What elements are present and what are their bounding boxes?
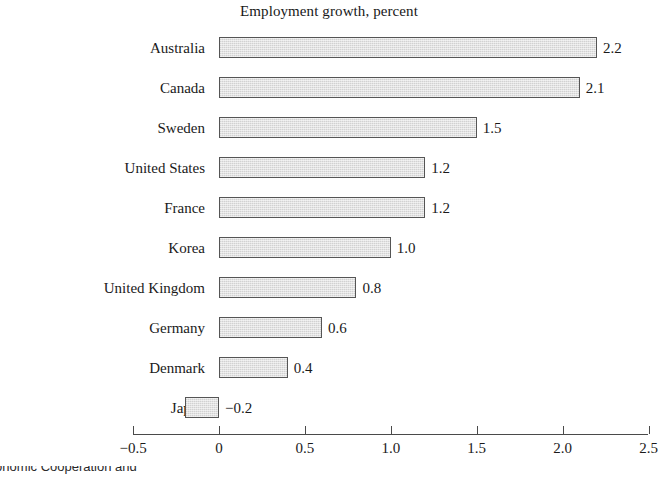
x-axis-tick: [649, 426, 650, 434]
x-axis-tick: [563, 426, 564, 434]
x-axis-tick-label: 2.0: [553, 440, 572, 457]
x-axis-tick-label: −0.5: [119, 440, 146, 457]
x-axis-tick: [219, 426, 220, 434]
x-axis-tick-label: 1.0: [381, 440, 400, 457]
x-axis-tick: [477, 426, 478, 434]
x-axis: −0.500.51.01.52.02.5: [0, 0, 658, 482]
x-axis-tick-label: 1.5: [467, 440, 486, 457]
source-footnote: r Economic Cooperation and: [0, 466, 430, 482]
x-axis-tick: [133, 426, 134, 434]
x-axis-tick: [391, 426, 392, 434]
x-axis-tick-label: 0.5: [296, 440, 315, 457]
x-axis-tick-label: 0: [215, 440, 223, 457]
source-footnote-text: r Economic Cooperation and: [0, 466, 137, 474]
x-axis-tick: [305, 426, 306, 434]
chart-figure: Employment growth, percent Australia2.2C…: [0, 0, 658, 482]
x-axis-tick-label: 2.5: [639, 440, 658, 457]
x-axis-line: [133, 434, 648, 435]
